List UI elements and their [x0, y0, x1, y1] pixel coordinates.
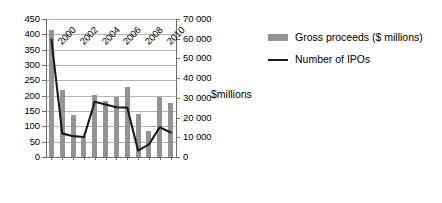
- left-axis-tick-label: 150: [24, 106, 40, 116]
- right-axis-tick-label: 50 000: [183, 53, 211, 63]
- chart-legend: Gross proceeds ($ millions) Number of IP…: [268, 30, 423, 74]
- category-axis-tick: [84, 157, 85, 160]
- right-axis-tick-label: 10 000: [183, 132, 211, 142]
- category-axis-tick: [116, 157, 117, 160]
- right-axis-tick-label: 30 000: [183, 93, 211, 103]
- left-axis-tick-label: 450: [24, 14, 40, 24]
- plot-area: 050100150200250300350400450 010 00020 00…: [46, 19, 176, 157]
- right-axis-tick-label: 0: [183, 152, 188, 162]
- category-axis-tick: [171, 157, 172, 160]
- legend-item-number-of-ipos: Number of IPOs: [268, 52, 423, 67]
- left-axis-tick-label: 100: [24, 121, 40, 131]
- legend-label-number-of-ipos: Number of IPOs: [295, 54, 370, 65]
- right-axis-tick-label: 20 000: [183, 113, 211, 123]
- legend-item-gross-proceeds: Gross proceeds ($ millions): [268, 30, 423, 45]
- category-axis-tick: [95, 157, 96, 160]
- left-axis-tick-label: 400: [24, 29, 40, 39]
- left-axis-tick-label: 250: [24, 75, 40, 85]
- right-axis-tick-label: 60 000: [183, 34, 211, 44]
- category-axis-tick: [149, 157, 150, 160]
- category-axis-tick: [127, 157, 128, 160]
- bar-swatch-icon: [268, 34, 288, 41]
- category-axis-tick: [73, 157, 74, 160]
- left-axis-tick-label: 0: [35, 152, 40, 162]
- secondary-axis-title: $millions: [211, 89, 252, 100]
- category-axis-tick: [51, 157, 52, 160]
- combo-chart: 050100150200250300350400450 010 00020 00…: [0, 0, 442, 203]
- category-axis-tick: [62, 157, 63, 160]
- left-axis-tick-label: 300: [24, 60, 40, 70]
- line-path: [51, 40, 170, 151]
- left-axis-tick-label: 50: [30, 137, 40, 147]
- line-swatch-icon: [268, 59, 288, 61]
- left-axis-tick-label: 350: [24, 45, 40, 55]
- category-axis-line: [46, 157, 177, 158]
- right-axis-tick-label: 40 000: [183, 73, 211, 83]
- category-axis-tick: [160, 157, 161, 160]
- category-axis-tick: [106, 157, 107, 160]
- right-axis-tick-label: 70 000: [183, 14, 211, 24]
- left-axis-tick-label: 200: [24, 91, 40, 101]
- left-axis-line: [46, 19, 47, 157]
- legend-label-gross-proceeds: Gross proceeds ($ millions): [295, 32, 423, 43]
- category-axis-tick: [138, 157, 139, 160]
